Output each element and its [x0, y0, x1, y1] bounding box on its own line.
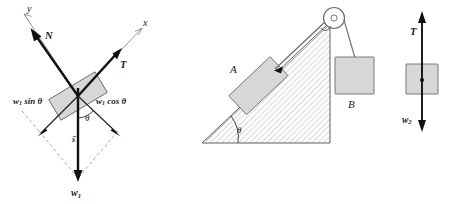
angle-theta-label: θ: [85, 113, 90, 123]
center-of-mass-dot: [420, 78, 424, 82]
vector-weight-down-label: w2: [402, 115, 412, 125]
shaft-weight-label: w1: [69, 135, 77, 142]
panel-free-body-incline: y x N T: [0, 0, 160, 204]
w2-subscript: 2: [407, 118, 412, 125]
panel-incline-pulley: θ A B: [160, 0, 380, 204]
w-parallel-angle: θ: [38, 96, 43, 106]
w-perp-angle: θ: [122, 96, 127, 106]
axis-y-label: y: [26, 3, 32, 14]
w-subscript: 1: [78, 192, 81, 199]
vector-weight-perpendicular-label: w1 cos θ: [96, 96, 127, 106]
axis-x-label: x: [142, 17, 148, 28]
vector-weight-label: w1: [71, 187, 81, 199]
w-perp-function: cos: [107, 96, 119, 106]
block-a-label: A: [229, 63, 237, 75]
block-b: [335, 57, 374, 94]
vector-normal-force: [31, 28, 79, 96]
w-parallel-function: sin: [23, 96, 35, 106]
vector-tension-label: T: [120, 59, 127, 70]
panel-free-body-hanging: T w2: [380, 0, 450, 204]
physics-figure: y x N T: [0, 0, 450, 204]
block-b-label: B: [348, 98, 355, 110]
vector-normal-force-label: N: [44, 30, 53, 41]
vector-weight-parallel-label: w1 sin θ: [13, 96, 43, 106]
incline-angle-label: θ: [237, 125, 242, 135]
vector-tension-up-label: T: [410, 26, 417, 37]
cord-vertical-segment: [344, 20, 355, 58]
